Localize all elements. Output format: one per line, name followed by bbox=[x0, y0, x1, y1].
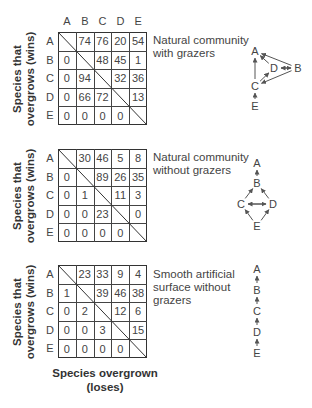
network-node-d: D bbox=[253, 326, 261, 338]
network-edge-e-to-d bbox=[261, 210, 269, 221]
network-edge-e-to-c bbox=[245, 210, 253, 221]
network-node-b: B bbox=[253, 284, 260, 296]
network-node-d: D bbox=[269, 198, 277, 210]
network-node-b: B bbox=[253, 177, 260, 189]
network-node-d: D bbox=[270, 62, 278, 74]
network-node-a: A bbox=[251, 45, 259, 57]
network-edge-c-to-d bbox=[260, 73, 269, 81]
network-edge-d-to-b bbox=[261, 189, 269, 199]
network-natural-with-grazers: ABCDE bbox=[251, 45, 302, 112]
network-node-b: B bbox=[294, 62, 301, 74]
network-node-c: C bbox=[253, 305, 261, 317]
network-node-e: E bbox=[253, 347, 260, 359]
network-node-a: A bbox=[253, 263, 261, 275]
network-node-e: E bbox=[251, 100, 258, 112]
network-node-c: C bbox=[251, 80, 259, 92]
network-node-a: A bbox=[253, 157, 261, 169]
competition-network-with-grazers: ABCDEABCDEABCDE bbox=[0, 0, 312, 408]
network-natural-without-grazers: ABCDE bbox=[237, 157, 277, 232]
network-node-c: C bbox=[237, 198, 245, 210]
network-smooth-artificial-without-grazers: ABCDE bbox=[253, 263, 261, 359]
network-edge-c-to-b bbox=[245, 189, 253, 199]
network-node-e: E bbox=[253, 220, 260, 232]
network-edge-d-to-a bbox=[260, 56, 269, 64]
